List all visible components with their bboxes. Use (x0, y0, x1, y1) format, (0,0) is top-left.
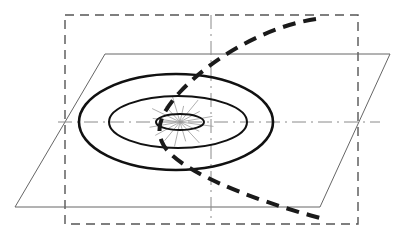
figure-root (0, 0, 404, 242)
diagram-canvas (0, 0, 404, 242)
canvas-background (0, 0, 404, 242)
